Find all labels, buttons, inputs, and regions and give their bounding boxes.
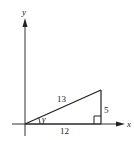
- hypotenuse-label: 13: [57, 94, 67, 104]
- right-angle-marker-icon: [94, 116, 101, 124]
- right-triangle-diagram: y x 13 5 12 γ: [0, 0, 134, 141]
- angle-arc-icon: [39, 118, 40, 124]
- opposite-label: 5: [104, 105, 109, 115]
- y-axis-label: y: [21, 7, 26, 17]
- angle-label: γ: [42, 114, 46, 124]
- adjacent-label: 12: [60, 126, 69, 136]
- y-axis: y: [21, 7, 28, 136]
- x-axis-arrow-icon: [116, 122, 125, 127]
- x-axis-label: x: [126, 119, 131, 129]
- y-axis-arrow-icon: [23, 18, 28, 27]
